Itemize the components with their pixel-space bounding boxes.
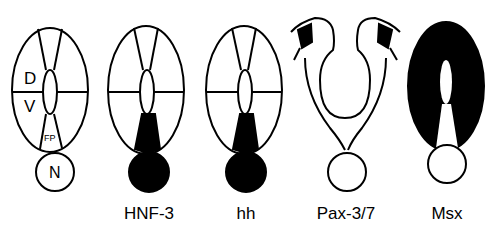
notochord — [328, 153, 366, 191]
roof-plate-right — [54, 29, 62, 70]
panel-hh — [206, 26, 282, 192]
notochord — [428, 145, 466, 183]
floor-plate-left — [40, 114, 46, 149]
label-notochord: N — [49, 164, 61, 181]
label-floor-plate: FP — [44, 133, 56, 143]
label-msx: Msx — [431, 204, 463, 223]
panel-msx — [408, 22, 484, 183]
panel-hnf3 — [108, 26, 184, 192]
label-ventral: V — [24, 97, 36, 116]
lumen — [440, 60, 452, 104]
label-hnf3: HNF-3 — [124, 204, 174, 223]
dorsal-expression-left — [298, 24, 312, 48]
neural-tube-expression-diagram: D V FP N HNF-3 hh Pax-3/7 — [0, 0, 496, 234]
label-hh: hh — [237, 204, 256, 223]
label-dorsal: D — [24, 69, 36, 88]
notochord-expression — [129, 152, 169, 192]
label-pax37: Pax-3/7 — [317, 204, 376, 223]
roof-plate-left — [38, 29, 46, 70]
notochord-expression — [226, 152, 266, 192]
lumen — [43, 70, 57, 114]
panel-pax37 — [291, 18, 400, 191]
dorsal-expression-right — [378, 24, 392, 48]
